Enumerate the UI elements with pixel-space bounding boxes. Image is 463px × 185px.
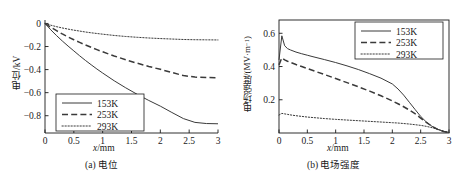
svg-text:3: 3 bbox=[447, 136, 452, 146]
x-axis-label-b: x/mm bbox=[327, 143, 349, 153]
legend-label-253K: 253K bbox=[97, 110, 118, 120]
svg-text:0.2: 0.2 bbox=[263, 95, 275, 105]
svg-text:0.6: 0.6 bbox=[263, 29, 275, 39]
x-axis-unit-b: /mm bbox=[331, 143, 348, 153]
svg-text:1.5: 1.5 bbox=[358, 136, 370, 146]
legend-b: 153K253K293K bbox=[355, 22, 443, 60]
svg-text:2: 2 bbox=[158, 136, 163, 146]
panel-potential: 00.511.522.530−0.2−0.4−0.6−0.8 153K253K2… bbox=[0, 0, 231, 185]
svg-text:−0.8: −0.8 bbox=[24, 111, 41, 121]
legend-label-293K: 293K bbox=[97, 122, 118, 132]
panel-caption-a: (a) 电位 bbox=[85, 157, 118, 171]
svg-text:−0.2: −0.2 bbox=[24, 42, 41, 52]
svg-text:−0.6: −0.6 bbox=[24, 88, 41, 98]
x-axis-label-a: x/mm bbox=[93, 143, 115, 153]
legend-label-153K: 153K bbox=[396, 27, 417, 37]
legend-a: 153K253K293K bbox=[56, 94, 144, 132]
svg-text:3: 3 bbox=[216, 136, 221, 146]
svg-text:2: 2 bbox=[390, 136, 395, 146]
curve-253K bbox=[45, 23, 218, 77]
legend-label-153K: 153K bbox=[97, 99, 118, 109]
svg-text:0: 0 bbox=[43, 136, 48, 146]
legend-label-293K: 293K bbox=[396, 50, 417, 60]
svg-text:2.5: 2.5 bbox=[183, 136, 195, 146]
panel-caption-b: (b) 电场强度 bbox=[307, 157, 360, 171]
legend-label-253K: 253K bbox=[396, 38, 417, 48]
panel-field-strength: 00.511.522.530.20.40.6 153K253K293K 电场强度… bbox=[231, 0, 463, 185]
y-axis-label-exponent-b: −1 bbox=[243, 39, 250, 46]
figure-container: 00.511.522.530−0.2−0.4−0.6−0.8 153K253K2… bbox=[0, 0, 463, 185]
svg-text:0: 0 bbox=[277, 136, 282, 146]
y-axis-label-tail-b: ) bbox=[242, 36, 252, 39]
y-axis-label-potential: 电位/kV bbox=[10, 38, 24, 108]
svg-text:0.4: 0.4 bbox=[263, 62, 275, 72]
svg-text:0.5: 0.5 bbox=[68, 136, 80, 146]
svg-text:0: 0 bbox=[36, 19, 41, 29]
svg-text:2.5: 2.5 bbox=[415, 136, 427, 146]
svg-text:0.5: 0.5 bbox=[301, 136, 313, 146]
svg-text:−0.4: −0.4 bbox=[24, 65, 41, 75]
curve-253K bbox=[279, 58, 449, 133]
svg-text:1.5: 1.5 bbox=[126, 136, 138, 146]
y-axis-label-field-strength: 电场强度/(MV·m−1) bbox=[240, 18, 253, 130]
x-axis-unit-a: /mm bbox=[97, 143, 114, 153]
curve-293K bbox=[45, 23, 218, 39]
y-axis-label-main-b: 电场强度/(MV·m bbox=[242, 46, 252, 112]
